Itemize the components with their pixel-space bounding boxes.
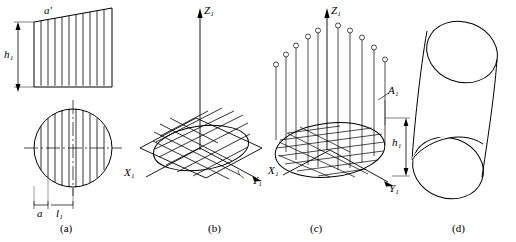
technical-drawing-figure xyxy=(0,0,516,242)
label-y1-c: Y₁ xyxy=(389,182,399,194)
label-a-dim: a xyxy=(37,207,43,219)
label-h1-c: h₁ xyxy=(392,136,401,148)
caption-a: (a) xyxy=(60,222,72,234)
caption-c: (c) xyxy=(310,222,322,234)
caption-d: (d) xyxy=(452,222,465,234)
panel-b-axonometric-ellipse xyxy=(140,8,262,182)
label-x1-b: X₁ xyxy=(124,166,135,178)
label-h1-a: h₁ xyxy=(4,48,13,60)
label-y1-b: Y₁ xyxy=(252,174,262,186)
panel-d-oblique-cylinder xyxy=(404,11,506,208)
panel-a-front-view xyxy=(14,8,122,209)
panel-c-element-lines xyxy=(272,8,410,187)
caption-b: (b) xyxy=(208,222,221,234)
label-l1-dim: l₁ xyxy=(56,207,63,219)
label-a1-c: A₁ xyxy=(388,84,399,96)
label-x1-c: X₁ xyxy=(268,164,279,176)
label-z1-c: Z₁ xyxy=(331,4,341,16)
label-z1-b: Z₁ xyxy=(204,4,214,16)
label-a-prime: a′ xyxy=(44,4,52,16)
